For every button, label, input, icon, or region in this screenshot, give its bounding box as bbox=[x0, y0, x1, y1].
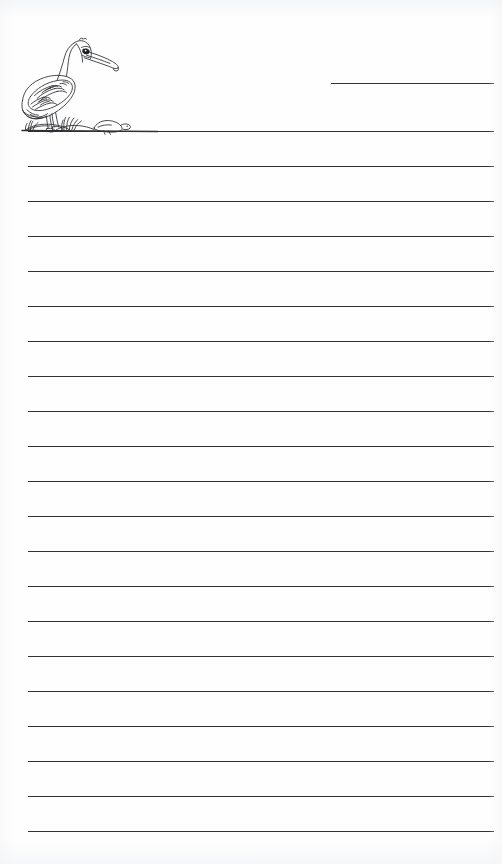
grass-tuft-icon bbox=[25, 123, 27, 129]
ruled-line[interactable] bbox=[28, 236, 494, 237]
ruled-line[interactable] bbox=[28, 481, 494, 482]
ruled-line[interactable] bbox=[28, 341, 494, 342]
wing-feather-icon bbox=[60, 83, 67, 85]
ruled-line[interactable] bbox=[28, 796, 494, 797]
pelican-brow-icon bbox=[81, 46, 90, 48]
ruled-line[interactable] bbox=[28, 656, 494, 657]
ruled-line[interactable] bbox=[28, 201, 494, 202]
pelican-bill-icon bbox=[90, 53, 118, 69]
pelican-crest-icon bbox=[79, 38, 82, 40]
pelican-neck-icon bbox=[57, 43, 74, 81]
title-write-on-line[interactable] bbox=[331, 83, 494, 84]
wing-feather-icon bbox=[50, 103, 57, 105]
grass-tuft-icon bbox=[69, 118, 74, 130]
ruled-line[interactable] bbox=[28, 761, 494, 762]
ruled-line[interactable] bbox=[28, 726, 494, 727]
pelican-leg-icon bbox=[56, 113, 59, 127]
chick-icon bbox=[98, 125, 111, 127]
pelican-illustration bbox=[8, 30, 158, 138]
ruled-line[interactable] bbox=[28, 411, 494, 412]
ruled-line[interactable] bbox=[28, 621, 494, 622]
ruled-line[interactable] bbox=[28, 586, 494, 587]
ruled-line[interactable] bbox=[28, 376, 494, 377]
ruled-line[interactable] bbox=[28, 831, 494, 832]
grass-tuft-icon bbox=[67, 117, 70, 130]
ruled-line[interactable] bbox=[28, 306, 494, 307]
ruled-line[interactable] bbox=[28, 691, 494, 692]
pelican-eye-icon bbox=[85, 50, 87, 52]
ruled-line[interactable] bbox=[28, 551, 494, 552]
ruled-line[interactable] bbox=[28, 166, 494, 167]
pelican-leg-icon bbox=[47, 116, 49, 128]
ruled-line[interactable] bbox=[28, 446, 494, 447]
lined-paper-page bbox=[0, 0, 502, 864]
pelican-crest-icon bbox=[83, 38, 87, 39]
ruled-line[interactable] bbox=[28, 131, 494, 132]
chick-eye-icon bbox=[127, 126, 128, 127]
pelican-head-icon bbox=[77, 44, 83, 62]
wing-feather-icon bbox=[57, 91, 67, 93]
wing-feather-icon bbox=[55, 88, 65, 90]
ruled-line[interactable] bbox=[28, 271, 494, 272]
ruled-line[interactable] bbox=[28, 516, 494, 517]
